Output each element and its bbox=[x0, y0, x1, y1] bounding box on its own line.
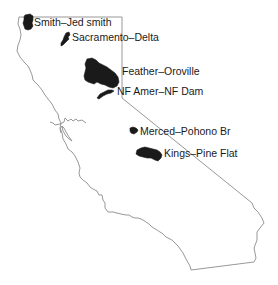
basin-feather-label: Feather–Oroville bbox=[122, 65, 200, 77]
sf-bay-outline bbox=[50, 118, 86, 141]
basin-sacramento-label: Sacramento–Delta bbox=[72, 31, 159, 43]
basin-smith-label: Smith–Jed smith bbox=[34, 16, 112, 28]
state-outline bbox=[17, 17, 264, 270]
basin-merced-label: Merced–Pohono Br bbox=[140, 125, 231, 137]
basin-kings-label: Kings–Pine Flat bbox=[164, 147, 238, 159]
basin-merced-shape[interactable] bbox=[130, 127, 138, 134]
map-canvas: Smith–Jed smith Sacramento–Delta Feather… bbox=[0, 0, 278, 285]
basin-feather-shape[interactable] bbox=[84, 58, 119, 88]
basin-nfamer-label: NF Amer–NF Dam bbox=[117, 85, 204, 97]
basin-nfamer-shape[interactable] bbox=[97, 90, 114, 99]
california-basin-map: Smith–Jed smith Sacramento–Delta Feather… bbox=[0, 0, 278, 285]
basin-sacramento-shape[interactable] bbox=[61, 32, 70, 46]
basin-smith-shape[interactable] bbox=[23, 14, 33, 30]
basin-kings-shape[interactable] bbox=[136, 147, 162, 161]
